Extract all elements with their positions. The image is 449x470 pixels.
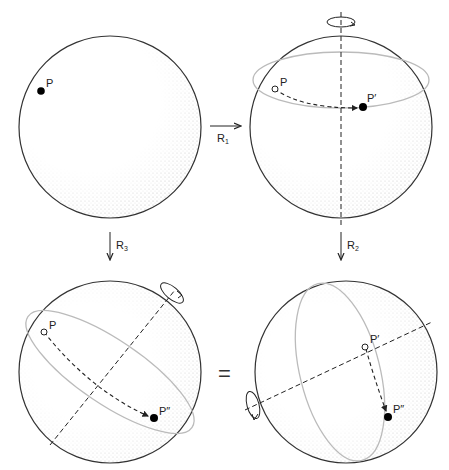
sphere-bottom-left: P P″	[10, 279, 210, 463]
svg-text:P″: P″	[393, 403, 404, 415]
sphere-top-left: P	[19, 36, 201, 218]
svg-text:R2: R2	[347, 239, 359, 252]
svg-text:P: P	[49, 319, 56, 331]
point-p	[37, 87, 45, 95]
svg-text:P: P	[280, 76, 287, 88]
svg-text:R1: R1	[217, 132, 229, 145]
arrow-r3: R3	[110, 232, 128, 259]
sphere-bottom-right: P′ P″	[244, 274, 437, 470]
point-p-prime	[359, 103, 367, 111]
arrow-r1: R1	[210, 126, 240, 145]
svg-text:P′: P′	[370, 333, 379, 345]
label-p: P	[46, 77, 53, 89]
arrow-r2: R2	[341, 232, 359, 259]
svg-text:R3: R3	[116, 239, 128, 252]
svg-text:P′: P′	[367, 92, 376, 104]
sphere-top-right: P P′	[250, 12, 432, 228]
point-p-original	[272, 86, 278, 92]
rotation-diagram: P R1 P P′ R3 R2	[0, 0, 449, 470]
equals-sign: =	[218, 361, 231, 386]
svg-text:P″: P″	[159, 405, 170, 417]
